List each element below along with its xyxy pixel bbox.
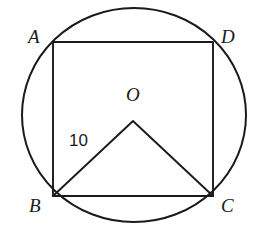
vertex-label-d: D — [221, 27, 235, 46]
center-label-o: O — [126, 85, 140, 104]
vertex-label-a: A — [28, 27, 40, 46]
geometry-figure: A D B C O 10 — [0, 0, 261, 238]
vertex-label-b: B — [29, 196, 41, 215]
vertex-label-c: C — [221, 196, 234, 215]
radius-measure-label: 10 — [69, 132, 88, 149]
